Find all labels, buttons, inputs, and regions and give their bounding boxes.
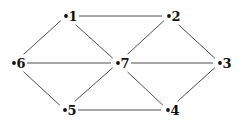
node-label: 2: [172, 9, 181, 24]
node-label: 3: [223, 56, 232, 71]
edge-2-7: [128, 21, 164, 55]
node-dot-icon: [166, 108, 170, 112]
node-dot-icon: [218, 61, 222, 65]
node-label: 6: [17, 56, 26, 71]
node-label: 7: [121, 56, 130, 71]
node-dot-icon: [12, 61, 16, 65]
node-2: 2: [167, 9, 180, 24]
edge-7-5: [75, 68, 113, 102]
edge-2-3: [179, 25, 215, 59]
node-dot-icon: [63, 108, 67, 112]
edge-3-4: [178, 68, 215, 102]
node-1: 1: [64, 9, 77, 24]
node-3: 3: [218, 56, 231, 71]
node-label: 5: [68, 103, 77, 118]
node-label: 1: [69, 9, 78, 24]
node-5: 5: [63, 103, 76, 118]
edge-6-5: [24, 72, 60, 106]
node-4: 4: [166, 103, 179, 118]
edge-7-4: [128, 72, 163, 105]
node-dot-icon: [116, 61, 120, 65]
node-7: 7: [116, 56, 129, 71]
node-label: 4: [171, 103, 180, 118]
edge-1-6: [24, 21, 61, 55]
graph-diagram: 1234567: [0, 0, 242, 123]
node-dot-icon: [167, 14, 171, 18]
edge-1-7: [76, 25, 113, 59]
node-dot-icon: [64, 14, 68, 18]
node-6: 6: [12, 56, 25, 71]
